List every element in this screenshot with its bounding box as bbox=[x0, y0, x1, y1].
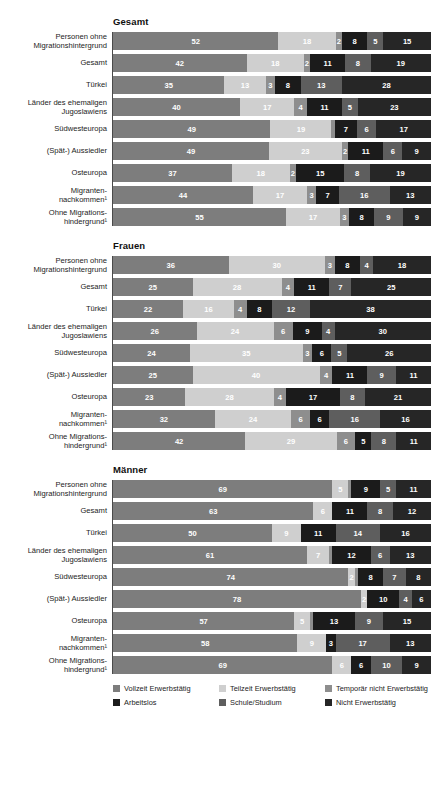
bar-segment: 3 bbox=[303, 344, 313, 362]
bar-segment: 6 bbox=[412, 590, 431, 608]
legend-item[interactable]: Vollzeit Erwerbstätig bbox=[113, 684, 219, 693]
legend-label: Schule/Studium bbox=[230, 698, 282, 707]
bar-segment: 12 bbox=[332, 546, 370, 564]
chart-row: Migranten- nachkommen¹58931713 bbox=[113, 634, 431, 652]
bar-segment: 40 bbox=[193, 366, 320, 384]
bar-segment: 18 bbox=[232, 164, 290, 182]
bar-segment: 19 bbox=[370, 164, 431, 182]
legend-item[interactable]: Teilzeit Erwerbstätig bbox=[219, 684, 325, 693]
bar-segment: 11 bbox=[396, 480, 431, 498]
bar-segment: 3 bbox=[307, 186, 317, 204]
bar-segment: 25 bbox=[351, 278, 431, 296]
bar-segment: 19 bbox=[371, 54, 431, 72]
bar-segment: 57 bbox=[113, 612, 294, 630]
bar-segment: 15 bbox=[383, 32, 431, 50]
bar-segment: 7 bbox=[307, 546, 329, 564]
row-label: Migranten- nachkommen¹ bbox=[0, 186, 107, 204]
bar-segment: 24 bbox=[113, 344, 190, 362]
bar-segment: 19 bbox=[270, 120, 331, 138]
bar-segment: 9 bbox=[402, 656, 431, 674]
bar-segment: 30 bbox=[335, 322, 431, 340]
bar-segment: 6 bbox=[351, 656, 370, 674]
legend-label: Nicht Erwerbstätig bbox=[336, 698, 396, 707]
chart-row: (Spät-) Aussiedler2540411911 bbox=[113, 366, 431, 384]
bar-segment: 18 bbox=[278, 32, 335, 50]
chart-row: Gesamt63611812 bbox=[113, 502, 431, 520]
stacked-bar: 521828515 bbox=[113, 32, 431, 50]
row-label: Gesamt bbox=[0, 58, 107, 67]
stacked-bar: 262469430 bbox=[113, 322, 431, 340]
row-label: Länder des ehemaligen Jugoslawiens bbox=[0, 546, 107, 564]
bar-segment: 69 bbox=[113, 480, 332, 498]
bar-segment: 9 bbox=[374, 208, 402, 226]
bar-segment: 8 bbox=[275, 76, 300, 94]
legend-item[interactable]: Arbeitslos bbox=[113, 698, 219, 707]
bar-segment: 11 bbox=[332, 502, 367, 520]
bar-segment: 35 bbox=[190, 344, 302, 362]
bar-segment: 52 bbox=[113, 32, 278, 50]
plot-gesamt: Personen ohne Migrationshintergrund52182… bbox=[0, 32, 431, 226]
row-label: Personen ohne Migrationshintergrund bbox=[0, 256, 107, 274]
legend-label: Temporär nicht Erwerbstätig bbox=[336, 684, 428, 693]
bar-segment: 9 bbox=[293, 322, 322, 340]
bar-segment: 7 bbox=[335, 120, 357, 138]
chart-row: Ohne Migrations- hindergrund¹55173899 bbox=[113, 208, 431, 226]
legend-swatch-icon bbox=[325, 699, 332, 706]
panel-frauen: Frauen Personen ohne Migrationshintergru… bbox=[0, 240, 431, 450]
bar-segment: 21 bbox=[365, 388, 431, 406]
stacked-bar: 3718215819 bbox=[113, 164, 431, 182]
legend-swatch-icon bbox=[219, 685, 226, 692]
bar-segment: 8 bbox=[358, 568, 383, 586]
chart-row: Ohne Migrations- hindergrund¹422965811 bbox=[113, 432, 431, 450]
bar-segment: 6 bbox=[337, 432, 356, 450]
row-label: Gesamt bbox=[0, 282, 107, 291]
bar-segment: 11 bbox=[396, 366, 431, 384]
bar-segment: 3 bbox=[340, 208, 349, 226]
row-label: Personen ohne Migrationshintergrund bbox=[0, 480, 107, 498]
plot-frauen: Personen ohne Migrationshintergrund36303… bbox=[0, 256, 431, 450]
chart-row: Türkei3513381328 bbox=[113, 76, 431, 94]
bar-segment: 61 bbox=[113, 546, 307, 564]
row-label: Migranten- nachkommen¹ bbox=[0, 634, 107, 652]
legend-item[interactable]: Schule/Studium bbox=[219, 698, 325, 707]
bar-segment: 6 bbox=[291, 410, 310, 428]
row-label: Türkei bbox=[0, 528, 107, 537]
bar-segment: 74 bbox=[113, 568, 348, 586]
bar-segment: 8 bbox=[349, 208, 374, 226]
panel-title-maenner: Männer bbox=[0, 464, 431, 475]
legend-swatch-icon bbox=[113, 685, 120, 692]
row-label: (Spät-) Aussiedler bbox=[0, 594, 107, 603]
bar-segment: 6 bbox=[313, 502, 332, 520]
bar-segment: 38 bbox=[310, 300, 431, 318]
bar-segment: 9 bbox=[297, 634, 326, 652]
chart-row: Osteuropa3718215819 bbox=[113, 164, 431, 182]
bar-segment: 6 bbox=[310, 410, 329, 428]
chart-row: Türkei2216481238 bbox=[113, 300, 431, 318]
bar-segment: 8 bbox=[367, 502, 392, 520]
bar-segment: 42 bbox=[113, 432, 245, 450]
stacked-bar: 2216481238 bbox=[113, 300, 431, 318]
bar-segment: 3 bbox=[326, 634, 336, 652]
bar-segment: 12 bbox=[272, 300, 310, 318]
chart-row: Personen ohne Migrationshintergrund36303… bbox=[113, 256, 431, 274]
bar-segment: 24 bbox=[197, 322, 274, 340]
stacked-bar: 2540411911 bbox=[113, 366, 431, 384]
bar-segment: 7 bbox=[316, 186, 338, 204]
bar-segment: 4 bbox=[274, 388, 287, 406]
bar-segment: 4 bbox=[282, 278, 295, 296]
bar-segment: 8 bbox=[344, 164, 370, 182]
bar-segment: 16 bbox=[329, 410, 380, 428]
bar-segment: 25 bbox=[113, 278, 193, 296]
bar-segment: 13 bbox=[390, 186, 431, 204]
stacked-bar: 492321169 bbox=[113, 142, 431, 160]
chart-row: Südwesteuropa243536526 bbox=[113, 344, 431, 362]
bar-segment: 8 bbox=[345, 54, 370, 72]
legend-item[interactable]: Temporär nicht Erwerbstätig bbox=[325, 684, 431, 693]
legend-label: Arbeitslos bbox=[124, 698, 156, 707]
bar-segment: 63 bbox=[113, 502, 313, 520]
legend-item[interactable]: Nicht Erwerbstätig bbox=[325, 698, 431, 707]
chart-row: Ohne Migrations- hindergrund¹6966109 bbox=[113, 656, 431, 674]
row-label: Migranten- nachkommen¹ bbox=[0, 410, 107, 428]
chart-row: (Spät-) Aussiedler7821046 bbox=[113, 590, 431, 608]
row-label: Südwesteuropa bbox=[0, 124, 107, 133]
